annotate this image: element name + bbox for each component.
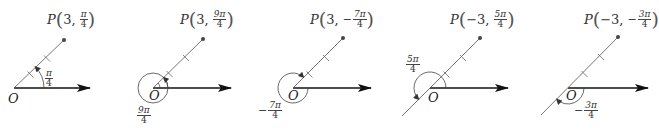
- angle-fraction: 9π 4: [137, 106, 151, 126]
- angle-denominator: 4: [271, 111, 279, 120]
- theta-fraction: π 4: [80, 10, 88, 30]
- right-paren: ): [651, 10, 658, 29]
- theta-fraction: 9π 4: [213, 10, 227, 30]
- ray-to-point: [14, 40, 64, 88]
- left-paren: (: [593, 10, 600, 29]
- origin-label-1: O: [8, 91, 19, 106]
- right-paren: ): [88, 10, 95, 29]
- angle-label-3: − 7π 4: [258, 101, 282, 121]
- comma: ,: [619, 13, 627, 26]
- point-p-dot: [201, 37, 205, 41]
- tick-mark: [307, 72, 313, 78]
- r-value: 3: [326, 13, 334, 26]
- point-label-3: P ( 3, − 7π 4 ): [310, 10, 374, 30]
- comma: ,: [71, 13, 79, 26]
- left-paren: (: [459, 10, 466, 29]
- theta-fraction: 7π 4: [353, 10, 367, 30]
- comma: ,: [204, 13, 212, 26]
- tick-mark: [444, 72, 450, 78]
- point-p-dot: [341, 36, 345, 40]
- theta-denominator: 4: [356, 20, 364, 29]
- r-value: 3: [63, 13, 71, 26]
- point-label-4: P ( −3, 5π 4 ): [450, 10, 515, 30]
- theta-denominator: 4: [497, 20, 505, 29]
- theta-fraction: 3π 4: [638, 10, 652, 30]
- comma: ,: [485, 13, 493, 26]
- angle-sign: −: [574, 104, 583, 117]
- point-p-dot: [62, 38, 66, 42]
- origin-label-4: O: [428, 90, 439, 105]
- theta-sign: −: [628, 14, 637, 25]
- ray-to-point: [153, 39, 203, 88]
- angle-arc-icon: [35, 67, 44, 88]
- origin-label-2: O: [149, 88, 160, 103]
- angle-fraction: π 4: [45, 69, 53, 89]
- right-paren: ): [507, 10, 514, 29]
- left-paren: (: [319, 10, 326, 29]
- angle-label-2: 9π 4: [137, 106, 151, 126]
- theta-fraction: 5π 4: [494, 10, 508, 30]
- line-through-origin: [402, 38, 480, 116]
- angle-fraction: 5π 4: [406, 55, 420, 75]
- comma: ,: [334, 13, 342, 26]
- tick-mark: [598, 54, 604, 60]
- theta-denominator: 4: [216, 20, 224, 29]
- point-label-1: P ( 3, π 4 ): [47, 10, 95, 30]
- point-name: P: [584, 13, 593, 26]
- angle-denominator: 4: [45, 79, 53, 88]
- tick-mark: [582, 71, 588, 77]
- angle-denominator: 4: [409, 65, 417, 74]
- left-paren: (: [189, 10, 196, 29]
- left-paren: (: [56, 10, 63, 29]
- right-paren: ): [226, 10, 233, 29]
- point-p-dot: [478, 36, 482, 40]
- r-value: −3: [466, 13, 485, 26]
- point-name: P: [310, 13, 319, 26]
- angle-fraction: 7π 4: [268, 101, 282, 121]
- angle-denominator: 4: [140, 116, 148, 125]
- point-p-dot: [616, 35, 620, 39]
- r-value: 3: [196, 13, 204, 26]
- point-label-5: P ( −3, − 3π 4 ): [584, 10, 659, 30]
- point-name: P: [180, 13, 189, 26]
- angle-label-4: 5π 4: [406, 55, 420, 75]
- origin-label-3: O: [288, 88, 299, 103]
- panel-4-graphics: [402, 36, 508, 116]
- theta-denominator: 4: [80, 20, 88, 29]
- tick-mark: [460, 55, 466, 61]
- tick-mark: [323, 55, 329, 61]
- ray-to-point: [293, 38, 343, 88]
- angle-sign: −: [258, 104, 267, 117]
- point-name: P: [450, 13, 459, 26]
- angle-denominator: 4: [587, 111, 595, 120]
- point-label-2: P ( 3, 9π 4 ): [180, 10, 234, 30]
- point-name: P: [47, 13, 56, 26]
- right-paren: ): [367, 10, 374, 29]
- theta-denominator: 4: [641, 20, 649, 29]
- angle-fraction: 3π 4: [584, 101, 598, 121]
- theta-sign: −: [343, 14, 352, 25]
- angle-label-1: π 4: [45, 69, 53, 89]
- r-value: −3: [600, 13, 619, 26]
- angle-label-5: − 3π 4: [574, 101, 598, 121]
